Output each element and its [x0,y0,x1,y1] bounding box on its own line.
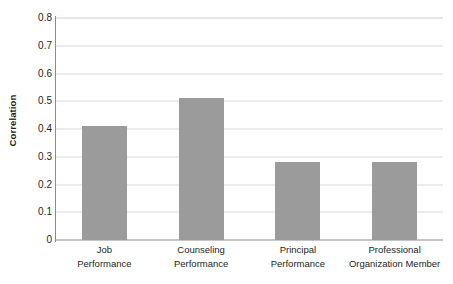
plot-area [56,18,443,240]
x-axis-label-line: Performance [153,257,250,271]
bar [179,98,224,240]
x-axis-label: ProfessionalOrganization Member [346,243,443,270]
x-axis-label-line: Performance [250,257,347,271]
y-axis-title: Correlation [2,0,24,240]
bar [82,126,127,240]
y-tick-label-0.8: 0.8 [38,13,52,23]
x-axis-category-labels: JobPerformanceCounselingPerformancePrinc… [56,243,443,283]
x-axis-label-line: Job [56,243,153,257]
y-tick-label-0.6: 0.6 [38,69,52,79]
y-tick-label-0: 0 [46,235,52,245]
x-axis-label: JobPerformance [56,243,153,270]
x-axis-label: CounselingPerformance [153,243,250,270]
y-tick-label-0.7: 0.7 [38,41,52,51]
y-axis-title-text: Correlation [8,94,19,146]
bar [275,162,320,240]
x-axis-label-line: Organization Member [346,257,443,271]
y-tick-label-0.3: 0.3 [38,152,52,162]
bar-series [56,18,443,240]
y-axis-tick-labels: 00.10.20.30.40.50.60.70.8 [22,0,55,240]
bar [372,162,417,240]
x-axis-label-line: Principal [250,243,347,257]
x-axis-label-line: Counseling [153,243,250,257]
bar-chart-figure: Correlation 00.10.20.30.40.50.60.70.8 Jo… [0,0,453,284]
x-axis-label: PrincipalPerformance [250,243,347,270]
y-tick-label-0.5: 0.5 [38,96,52,106]
y-tick-label-0.1: 0.1 [38,207,52,217]
y-tick-label-0.4: 0.4 [38,124,52,134]
y-tick-label-0.2: 0.2 [38,180,52,190]
x-axis-label-line: Professional [346,243,443,257]
x-axis-label-line: Performance [56,257,153,271]
